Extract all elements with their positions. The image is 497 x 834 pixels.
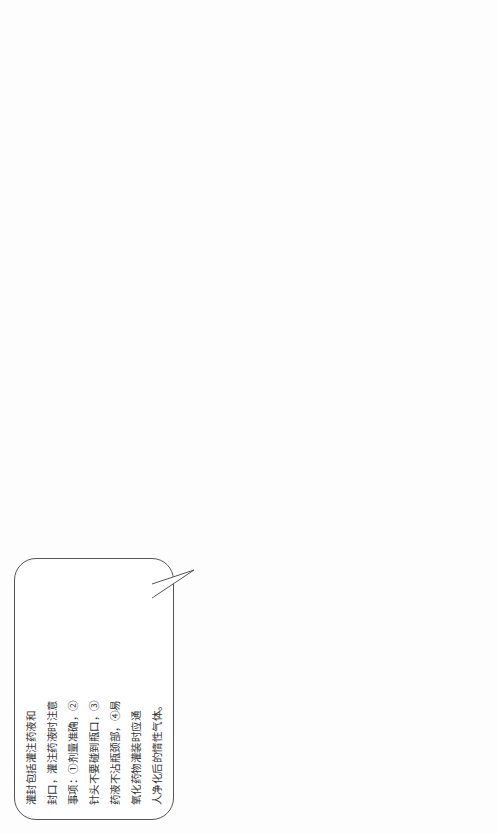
callout-line: 针头不要碰到瓶口，③ xyxy=(84,573,105,805)
callout-line: 人净化后的惰性气体。 xyxy=(147,573,168,805)
callout-line: 氧化药物灌装时应通 xyxy=(126,573,147,805)
figure-page-layout: 灌封包括灌注药液和 封口，灌注药液时注意 事项：①剂量准确，② 针头不要碰到瓶口… xyxy=(0,0,497,834)
callout-line: 事项：①剂量准确，② xyxy=(63,573,84,805)
callout-line: 封口，灌注药液时注意 xyxy=(42,573,63,805)
callout-line: 灌封包括灌注药液和 xyxy=(21,573,42,805)
callout-line: 药液不沾瓶颈部，④易 xyxy=(105,573,126,805)
callout-tail-icon xyxy=(150,550,198,600)
